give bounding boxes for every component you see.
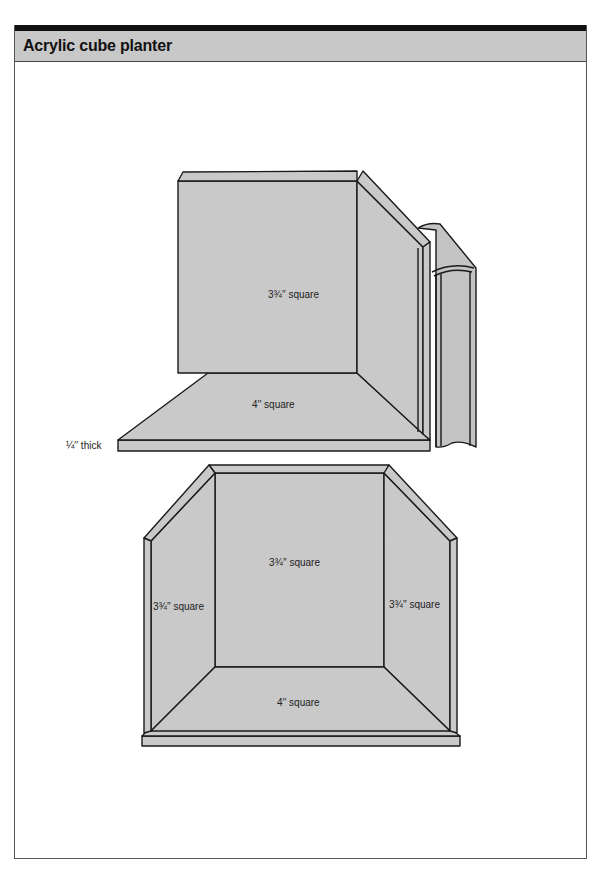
bottom-back-panel-cap: [209, 465, 389, 473]
thickness-label: ¼′′ thick: [66, 440, 102, 451]
top-base-label: 4′′ square: [252, 399, 295, 410]
top-back-panel: [178, 181, 357, 373]
bottom-left-panel-label: 3¾′′ square: [153, 601, 204, 612]
top-back-panel-cap: [178, 171, 357, 181]
top-base-slab: [118, 440, 430, 451]
bottom-left-panel-front-edge: [144, 538, 151, 733]
bottom-right-panel-front-edge: [450, 538, 457, 733]
bottom-back-panel-label: 3¾′′ square: [269, 557, 320, 568]
planter-diagrams: 3¾′′ square 4′′ square ¼′′ thick 3¾′′ sq…: [0, 0, 606, 880]
top-right-panel-front-edge: [423, 242, 430, 440]
top-back-panel-label: 3¾′′ square: [268, 289, 319, 300]
top-drawing-assembled-view: [118, 171, 476, 451]
bottom-base-slab: [142, 736, 460, 746]
bottom-right-panel-label: 3¾′′ square: [389, 599, 440, 610]
bottom-base-label: 4′′ square: [277, 697, 320, 708]
bottom-back-panel: [215, 473, 384, 667]
